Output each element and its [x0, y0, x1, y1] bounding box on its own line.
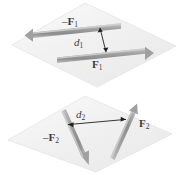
upper-plane-surface — [12, 3, 176, 87]
label-neg-f1-subscript: 1 — [74, 20, 78, 29]
label-d1: d1 — [74, 33, 83, 50]
label-d1-subscript: 1 — [80, 41, 84, 50]
label-neg-f2: –F2 — [43, 128, 59, 145]
lower-plane-surface — [8, 96, 172, 172]
figure-root: –F1 d1 F1 d2 F2 –F2 — [0, 0, 184, 175]
label-f2-subscript: 2 — [146, 122, 150, 131]
lower-plane-group — [8, 96, 172, 172]
label-f2: F2 — [139, 114, 149, 131]
label-f1: F1 — [92, 55, 102, 72]
upper-plane-group — [12, 3, 176, 87]
label-neg-f2-subscript: 2 — [55, 136, 59, 145]
label-f1-subscript: 1 — [99, 63, 103, 72]
figure-canvas — [0, 0, 184, 175]
label-f1-symbol: F — [92, 58, 99, 70]
label-neg-f1: –F1 — [62, 12, 78, 29]
label-d2-subscript: 2 — [82, 113, 86, 122]
label-f2-symbol: F — [139, 117, 146, 129]
label-d2: d2 — [76, 105, 85, 122]
